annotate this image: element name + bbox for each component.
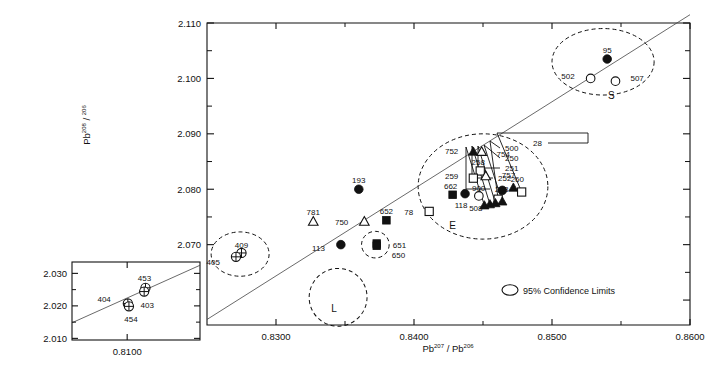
point-label: 252: [498, 174, 512, 183]
marker-filled-circle: [337, 240, 346, 249]
point-label: 251: [505, 164, 519, 173]
legend-text: 95% Confidence Limits: [523, 286, 616, 296]
marker-filled-circle: [355, 185, 364, 194]
inset-y-tick-label: 2.020: [43, 300, 67, 311]
marker-filled-circle: [461, 189, 470, 198]
inset-y-tick-label: 2.010: [43, 333, 67, 344]
marker-filled-triangle: [469, 147, 478, 155]
point-label: 259: [445, 172, 459, 181]
x-tick-label: 0.8500: [537, 331, 566, 342]
main-axis-tick-labels: 0.83000.84000.85000.86002.0702.0802.0902…: [177, 18, 704, 343]
inset-panel: 2.0102.0202.0300.8100404454453403: [43, 262, 200, 357]
marker-filled-circle: [603, 55, 612, 64]
point-label: 113: [312, 244, 325, 253]
point-label: 781: [307, 208, 321, 217]
point-label: 900: [472, 184, 486, 193]
marker-filled-square: [383, 216, 391, 224]
point-label: 651: [393, 241, 407, 250]
point-label: 662: [444, 182, 458, 191]
cluster-label: S: [608, 90, 615, 101]
point-label: 118: [455, 201, 468, 210]
inset-point-label: 453: [138, 274, 152, 283]
confidence-ellipse: [552, 29, 654, 95]
regression-line: [207, 15, 690, 320]
point-label: 250: [505, 154, 519, 163]
point-label: 193: [352, 176, 366, 185]
figure-tspan: /: [81, 115, 92, 123]
point-label: 652: [380, 207, 394, 216]
figure-tspan: 206: [464, 343, 475, 349]
figure-root: 4094057811131937506516506527866211850875…: [0, 0, 708, 378]
cluster-label: E: [449, 220, 456, 231]
point-label: 260: [511, 175, 525, 184]
axis-titles: Pb207 / Pb206Pb208 / 206: [81, 105, 474, 354]
figure-tspan: / Pb: [444, 343, 464, 354]
figure-tspan: 206: [81, 105, 87, 116]
marker-open-square: [425, 207, 433, 215]
point-label: 405: [207, 258, 221, 267]
point-label: 507: [630, 74, 644, 83]
cluster-labels: LES: [331, 90, 615, 314]
figure-tspan: %: [533, 286, 541, 296]
ellipse-icon: [502, 285, 518, 295]
inset-x-tick-label: 0.8100: [113, 346, 142, 357]
inset-point-label: 454: [124, 315, 138, 324]
y-axis-title: Pb208 / 206: [81, 105, 92, 145]
marker-filled-square: [449, 191, 457, 199]
point-label: 258: [472, 158, 486, 167]
legend: 95% Confidence Limits: [502, 285, 616, 296]
cluster-label: L: [331, 303, 337, 314]
point-label: 253: [495, 185, 509, 194]
x-axis-title: Pb207 / Pb206: [422, 343, 474, 354]
point-label: 28: [533, 139, 542, 148]
marker-filled-square: [373, 242, 381, 250]
point-label: 750: [335, 218, 349, 227]
y-tick-label: 2.110: [178, 18, 201, 29]
marker-filled-triangle: [509, 183, 518, 191]
marker-open-square: [469, 174, 477, 182]
main-data-points: 4094057811131937506516506527866211850875…: [207, 46, 645, 267]
main-regression-line: [207, 15, 690, 320]
y-tick-label: 2.100: [177, 73, 201, 84]
inset-point-label: 404: [97, 295, 111, 304]
y-tick-label: 2.070: [177, 239, 201, 250]
marker-open-circle: [611, 77, 620, 86]
point-label: 502: [561, 72, 575, 81]
marker-open-square: [518, 188, 526, 196]
inset-point-label: 403: [140, 301, 154, 310]
inset-y-tick-label: 2.030: [43, 268, 67, 279]
lead-isotope-scatter-figure: 4094057811131937506516506527866211850875…: [0, 0, 708, 378]
point-label: 78: [404, 208, 413, 217]
x-tick-label: 0.8600: [675, 331, 704, 342]
x-tick-label: 0.8400: [399, 331, 428, 342]
point-label: 752: [445, 147, 459, 156]
point-label: 409: [235, 241, 249, 250]
point-label: 95: [603, 46, 612, 55]
point-label: 650: [392, 251, 406, 260]
y-tick-label: 2.090: [177, 128, 201, 139]
marker-open-circle: [586, 74, 595, 83]
y-tick-label: 2.080: [177, 184, 201, 195]
point-label: 500: [505, 144, 519, 153]
marker-open-triangle: [308, 217, 318, 226]
inset-regression-line: [72, 265, 200, 323]
x-tick-label: 0.8300: [261, 331, 290, 342]
